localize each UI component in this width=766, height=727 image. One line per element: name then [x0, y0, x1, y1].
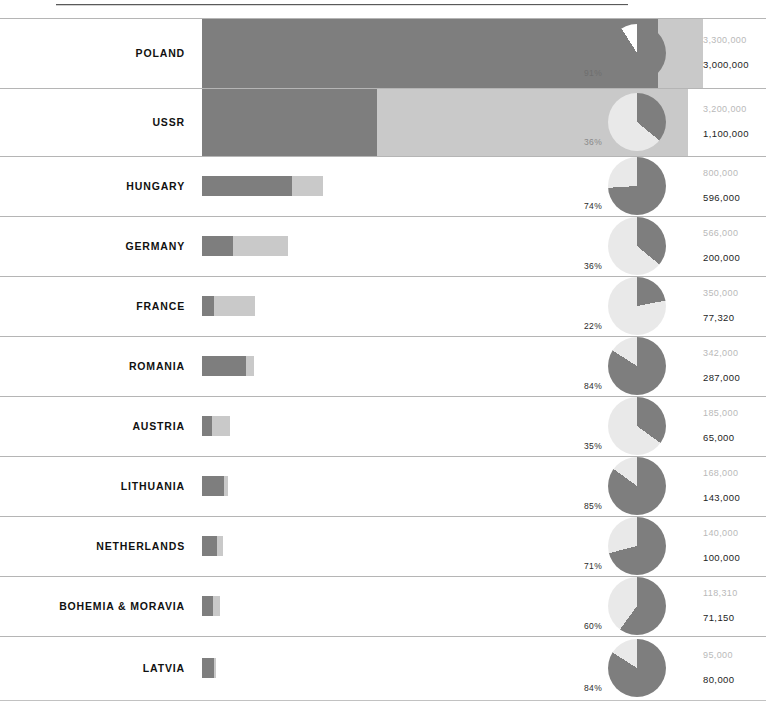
percentage-label: 22%: [562, 321, 602, 331]
killed-value: 65,000: [703, 432, 734, 443]
bar-segment-killed: [202, 296, 214, 316]
bar-segment-killed: [202, 596, 213, 616]
killed-value: 80,000: [703, 674, 734, 685]
bar-segment-remainder: [214, 296, 255, 316]
killed-value: 143,000: [703, 492, 740, 503]
bar-track: [202, 296, 255, 316]
killed-value: 200,000: [703, 252, 740, 263]
holocaust-victims-chart: POLAND91%3,300,0003,000,000USSR36%3,200,…: [0, 0, 766, 727]
percentage-label: 36%: [562, 137, 602, 147]
pie-chart: [608, 397, 666, 455]
chart-row: USSR36%3,200,0001,100,000: [0, 88, 766, 156]
chart-row: HUNGARY74%800,000596,000: [0, 156, 766, 216]
row-separator: [0, 336, 766, 337]
chart-row: NETHERLANDS71%140,000100,000: [0, 516, 766, 576]
row-separator: [0, 276, 766, 277]
row-separator: [0, 216, 766, 217]
pie-chart: [608, 517, 666, 575]
row-separator: [0, 516, 766, 517]
bar-track: [202, 658, 216, 678]
total-population-value: 800,000: [703, 168, 738, 178]
percentage-label: 84%: [562, 683, 602, 693]
total-population-value: 566,000: [703, 228, 738, 238]
bar-segment-killed: [202, 536, 217, 556]
row-separator: [0, 156, 766, 157]
country-label: NETHERLANDS: [0, 540, 185, 552]
killed-value: 3,000,000: [703, 59, 749, 70]
bar-track: [202, 596, 220, 616]
bar-segment-remainder: [213, 596, 220, 616]
chart-row: GERMANY36%566,000200,000: [0, 216, 766, 276]
killed-value: 287,000: [703, 372, 740, 383]
percentage-label: 35%: [562, 441, 602, 451]
header-rule-shadow: [56, 5, 628, 6]
killed-value: 596,000: [703, 192, 740, 203]
bar-track: [202, 236, 288, 256]
bar-segment-killed: [202, 356, 246, 376]
total-population-value: 118,310: [703, 588, 738, 598]
country-label: LATVIA: [0, 662, 185, 674]
chart-row: LITHUANIA85%168,000143,000: [0, 456, 766, 516]
killed-value: 1,100,000: [703, 128, 749, 139]
percentage-label: 84%: [562, 381, 602, 391]
percentage-label: 85%: [562, 501, 602, 511]
bar-segment-remainder: [214, 658, 216, 678]
bar-segment-killed: [202, 236, 233, 256]
row-separator: [0, 396, 766, 397]
bar-segment-remainder: [224, 476, 228, 496]
bar-segment-remainder: [233, 236, 288, 256]
chart-row: FRANCE22%350,00077,320: [0, 276, 766, 336]
percentage-label: 36%: [562, 261, 602, 271]
bar-track: [202, 176, 323, 196]
pie-chart: [608, 337, 666, 395]
pie-chart: [608, 577, 666, 635]
bar-segment-killed: [202, 89, 377, 156]
pie-chart: [608, 457, 666, 515]
bar-segment-killed: [202, 416, 212, 436]
bar-track: [202, 356, 254, 376]
bar-track: [202, 416, 230, 436]
country-label: BOHEMIA & MORAVIA: [0, 600, 185, 612]
percentage-label: 74%: [562, 201, 602, 211]
country-label: FRANCE: [0, 300, 185, 312]
row-separator: [0, 636, 766, 637]
percentage-label: 71%: [562, 561, 602, 571]
killed-value: 100,000: [703, 552, 740, 563]
bar-track: [202, 476, 228, 496]
row-separator: [0, 576, 766, 577]
country-label: GERMANY: [0, 240, 185, 252]
pie-chart: [608, 639, 666, 697]
total-population-value: 185,000: [703, 408, 738, 418]
chart-row: LATVIA84%95,00080,000: [0, 636, 766, 700]
footer-separator: [0, 700, 766, 701]
country-label: ROMANIA: [0, 360, 185, 372]
total-population-value: 342,000: [703, 348, 738, 358]
total-population-value: 3,200,000: [703, 104, 747, 114]
pie-chart: [608, 157, 666, 215]
chart-row: AUSTRIA35%185,00065,000: [0, 396, 766, 456]
total-population-value: 140,000: [703, 528, 738, 538]
bar-segment-killed: [202, 476, 224, 496]
bar-segment-remainder: [212, 416, 230, 436]
total-population-value: 95,000: [703, 650, 733, 660]
bar-track: [202, 536, 223, 556]
killed-value: 77,320: [703, 312, 734, 323]
country-label: AUSTRIA: [0, 420, 185, 432]
country-label: LITHUANIA: [0, 480, 185, 492]
total-population-value: 168,000: [703, 468, 738, 478]
country-label: POLAND: [0, 47, 185, 59]
bar-segment-remainder: [246, 356, 254, 376]
percentage-label: 60%: [562, 621, 602, 631]
bar-segment-killed: [202, 658, 214, 678]
pie-chart: [608, 217, 666, 275]
country-label: HUNGARY: [0, 180, 185, 192]
bar-segment-killed: [202, 176, 292, 196]
chart-row: POLAND91%3,300,0003,000,000: [0, 18, 766, 88]
killed-value: 71,150: [703, 612, 734, 623]
total-population-value: 350,000: [703, 288, 738, 298]
chart-row: ROMANIA84%342,000287,000: [0, 336, 766, 396]
bar-segment-remainder: [217, 536, 223, 556]
pie-chart: [608, 277, 666, 335]
percentage-label: 91%: [562, 68, 602, 78]
pie-chart: [608, 93, 666, 151]
